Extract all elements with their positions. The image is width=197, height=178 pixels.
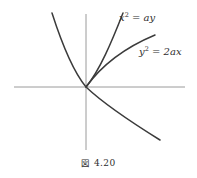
curve-parabola-up	[52, 13, 123, 87]
figure-container: x2 = ay y2 = 2ax 図4.20	[0, 0, 197, 178]
label-parabola-right: y2 = 2ax	[139, 47, 182, 57]
label-right-exponent: 2	[145, 45, 149, 53]
label-parabola-up: x2 = ay	[119, 13, 155, 23]
plot-area	[0, 0, 197, 152]
label-right-operator: =	[152, 46, 160, 57]
figure-caption: 図4.20	[0, 156, 197, 168]
label-right-expression: 2ax	[164, 46, 182, 57]
caption-number: 4.20	[94, 158, 116, 168]
caption-label: 図	[81, 158, 90, 168]
label-up-expression: ay	[144, 12, 156, 23]
label-up-exponent: 2	[125, 11, 129, 19]
parabolas-diagram	[0, 0, 197, 152]
label-up-operator: =	[132, 12, 140, 23]
